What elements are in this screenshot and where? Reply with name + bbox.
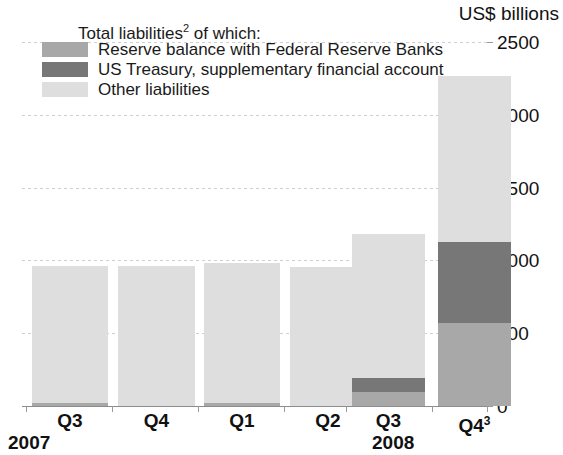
x-axis-tick-1	[112, 406, 113, 412]
x-axis-label-q4-2007: Q4	[118, 410, 195, 432]
x-axis-label-q1-2008: Q1	[204, 410, 280, 432]
x-axis-label-text: Q4	[458, 415, 483, 436]
x-axis-label-q4-2008: Q43	[438, 410, 511, 437]
legend-swatch-reserve	[42, 42, 88, 57]
legend-swatch-other	[42, 82, 88, 97]
legend-swatch-treasury	[42, 62, 88, 77]
x-axis-label-text: Q1	[229, 410, 254, 431]
x-axis-tick-0	[26, 406, 27, 412]
x-axis-label-q3-2008: Q3	[352, 410, 425, 432]
x-axis-label-text: Q3	[57, 410, 82, 431]
x-axis-tick-2	[198, 406, 199, 412]
x-axis-label-q3-2007: Q3	[32, 410, 108, 432]
chart-container: US$ billions 2500 2000 1500 1000 500 0 Q…	[0, 0, 563, 455]
legend-label-treasury: US Treasury, supplementary financial acc…	[98, 60, 444, 79]
x-axis-tick-3	[284, 406, 285, 412]
legend-label-reserve: Reserve balance with Federal Reserve Ban…	[98, 40, 443, 59]
year-label-2007: 2007	[8, 432, 50, 454]
x-axis-label-footnote: 3	[484, 414, 491, 428]
x-axis-label-text: Q4	[144, 410, 169, 431]
x-axis-label-text: Q3	[376, 410, 401, 431]
year-label-2008: 2008	[372, 432, 414, 454]
legend-label-other: Other liabilities	[98, 80, 210, 99]
x-axis-label-text: Q2	[315, 410, 340, 431]
x-axis-tick-5	[432, 406, 433, 412]
